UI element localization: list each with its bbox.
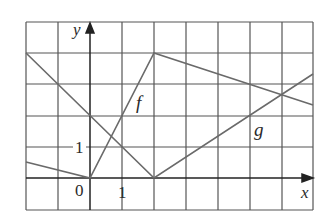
curve-f-label: f bbox=[136, 93, 141, 112]
grid bbox=[26, 22, 313, 210]
origin-label: 0 bbox=[75, 182, 84, 199]
x-axis-arrow-icon bbox=[302, 174, 313, 182]
x-axis-label: x bbox=[301, 184, 309, 201]
x-tick-label: 1 bbox=[118, 184, 127, 201]
y-tick-label: 1 bbox=[73, 139, 86, 156]
y-axis-arrow-icon bbox=[86, 23, 94, 33]
curve-g-label: g bbox=[254, 120, 264, 139]
graph bbox=[0, 0, 327, 215]
y-axis-label: y bbox=[73, 21, 81, 38]
